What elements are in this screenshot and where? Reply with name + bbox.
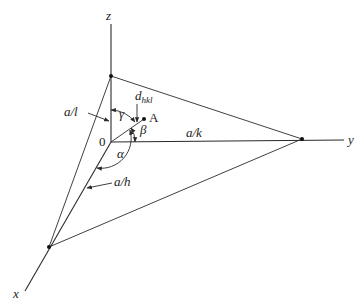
hkl-subscript: hkl xyxy=(142,95,153,105)
y-axis-label: y xyxy=(346,132,354,147)
edge-x-z xyxy=(49,76,111,247)
x-intercept-point xyxy=(47,245,51,249)
a-over-h-leader xyxy=(87,183,112,188)
point-A-label: A xyxy=(149,110,159,125)
origin-label: 0 xyxy=(99,134,106,149)
y-intercept-point xyxy=(300,137,304,141)
edge-y-x xyxy=(49,139,302,247)
x-intercept-label: a/h xyxy=(114,174,131,189)
a-over-l-leader xyxy=(88,113,109,121)
beta-arc xyxy=(131,128,135,142)
d-hkl-label: dhkl xyxy=(135,88,153,105)
miller-plane-diagram: z y x 0 a/l a/k a/h A dhkl γ β α xyxy=(0,0,364,308)
beta-label: β xyxy=(139,122,147,137)
plane-triangle xyxy=(49,76,302,247)
z-axis-label: z xyxy=(105,8,111,23)
gamma-label: γ xyxy=(119,106,125,121)
point-A xyxy=(142,117,146,121)
axes xyxy=(25,24,344,291)
z-intercept-label: a/l xyxy=(64,104,78,119)
y-axis xyxy=(111,140,344,142)
x-axis xyxy=(25,142,111,291)
z-intercept-point xyxy=(109,74,113,78)
x-axis-label: x xyxy=(12,286,19,301)
alpha-label: α xyxy=(117,146,125,161)
y-intercept-label: a/k xyxy=(186,125,202,140)
